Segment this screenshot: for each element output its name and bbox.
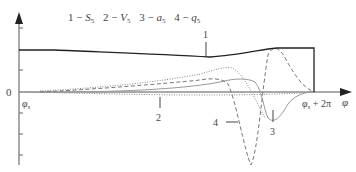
curve-s5 [19, 48, 314, 92]
x-axis-label: φ [342, 96, 348, 108]
curve-a5-dotted [40, 67, 265, 118]
svg-text:1 − S5 2 − V5 3 −: 1 − S5 2 − V5 3 − a5 4 − q5 [68, 11, 201, 25]
curve-a5 [60, 79, 314, 120]
annotation-2: 2 [156, 97, 161, 123]
annotation-4: 4 [213, 117, 238, 128]
legend-item-1: 1 − [68, 11, 85, 23]
zero-label: 0 [6, 86, 12, 98]
svg-text:4: 4 [213, 117, 218, 128]
annotation-3: 3 [270, 110, 275, 137]
curve-q5 [40, 48, 314, 165]
x-tick-phi-s-2pi: φs + 2π [302, 98, 331, 111]
svg-text:2: 2 [156, 112, 161, 123]
svg-text:1: 1 [203, 29, 208, 40]
y-axis [15, 12, 23, 165]
svg-text:3: 3 [270, 126, 275, 137]
legend: 1 − S5 2 − V5 3 − a5 4 − q5 [68, 11, 201, 25]
x-tick-phi-s: φs [22, 98, 31, 111]
annotation-1: 1 [203, 29, 208, 56]
cam-motion-chart: 1 − S5 2 − V5 3 − a5 4 − q5 0 φ φs φs + … [0, 0, 356, 172]
